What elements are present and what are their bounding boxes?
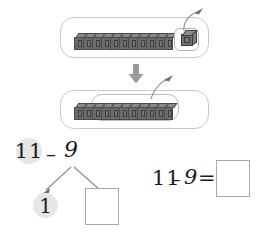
equation-equals-sign: = [198,168,216,189]
number-bond-branch-right-box[interactable] [85,188,119,225]
number-bond-operator: – [46,144,56,164]
cube-stud [184,37,190,43]
cube [128,107,137,120]
cube [137,107,146,120]
cube [146,37,155,50]
cube [164,107,173,120]
number-bond-branch-left-value: 1 [39,196,52,216]
cube [110,107,119,120]
callout-arrow-step-2 [148,74,182,100]
cube [83,107,92,120]
single-cube [181,34,193,46]
cube [119,37,128,50]
cube [137,37,146,50]
worksheet-canvas: 11 – 9 1 11 – 9 = [0,0,263,235]
cube [155,37,164,50]
cube [101,37,110,50]
cube [119,107,128,120]
number-bond-minuend: 11 [15,141,44,162]
cube [164,37,173,50]
cube [146,107,155,120]
cube [92,107,101,120]
cube-train-step-1 [74,33,173,50]
cube [74,37,83,50]
cube [74,107,83,120]
cube-train-step-2 [74,103,173,120]
cube [155,107,164,120]
cube [128,37,137,50]
callout-arrow-step-1 [176,6,212,32]
number-bond-subtrahend: 9 [64,139,78,161]
equation-subtrahend: 9 [184,167,197,188]
cube [101,107,110,120]
equation-answer-box[interactable] [216,160,250,197]
number-bond-branch-left: 1 [33,193,58,218]
cube [92,37,101,50]
cube [83,37,92,50]
cube [110,37,119,50]
number-bond-minuend-highlight: 11 [16,138,42,164]
equation-minus-sign: – [171,170,181,189]
down-arrow-icon [128,64,144,84]
